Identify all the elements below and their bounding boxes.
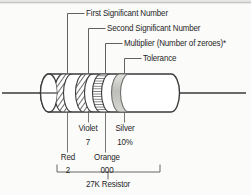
band2-value: 7: [86, 138, 90, 147]
resistor-body-group: [2, 74, 246, 112]
callout-label-band1: First Significant Number: [86, 9, 168, 18]
callout-label-band3: Multiplier (Number of zeroes)*: [124, 39, 226, 48]
band4-value: 10%: [117, 138, 133, 147]
callout-label-band4: Tolerance: [143, 54, 176, 63]
band1-color-name: Red: [61, 153, 75, 162]
band1-value: 2: [66, 166, 70, 175]
band2-color-name: Violet: [78, 124, 97, 133]
band3-value: 000: [101, 166, 114, 175]
callout-label-band2: Second Significant Number: [107, 24, 200, 33]
band3-color-name: Orange: [94, 153, 120, 162]
band4-color-name: Silver: [115, 124, 134, 133]
result-label: 27K Resistor: [86, 180, 130, 189]
